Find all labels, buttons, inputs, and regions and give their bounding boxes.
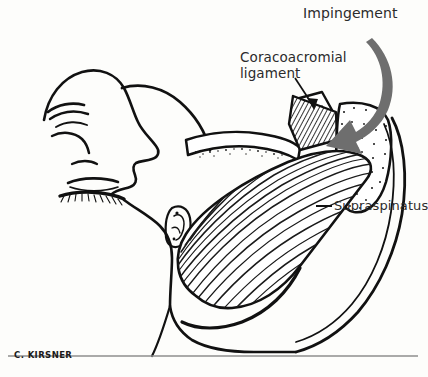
artist-signature: C. KIRSNER [14, 348, 72, 364]
label-impingement: Impingement [303, 6, 398, 22]
label-supraspinatus: Supraspinatus [334, 198, 428, 214]
label-coracoacromial-line2: ligament [240, 66, 347, 82]
label-coracoacromial-ligament: Coracoacromial ligament [240, 50, 347, 81]
label-coracoacromial-line1: Coracoacromial [240, 49, 347, 65]
